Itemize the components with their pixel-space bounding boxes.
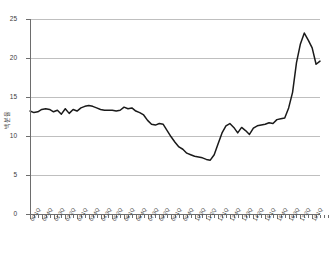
- x-axis-tick: [214, 215, 215, 218]
- x-axis-tick: [324, 215, 325, 218]
- x-axis-tick: [273, 215, 274, 218]
- y-axis-tick-label: 5: [1, 171, 17, 178]
- x-axis-tick: [179, 215, 180, 218]
- y-axis-line: [30, 19, 31, 215]
- x-axis-tick: [120, 215, 121, 218]
- x-axis-tick: [226, 215, 227, 218]
- y-axis-tick-label: 0: [1, 210, 17, 217]
- y-axis-tick-label: 20: [1, 54, 17, 61]
- x-axis-tick: [167, 215, 168, 218]
- x-axis-labels: 00.1Q00.4Q01.3Q02.2Q03.1Q03.4Q04.3Q05.2Q…: [0, 219, 329, 255]
- x-axis-tick: [320, 215, 321, 218]
- x-axis-tick: [73, 215, 74, 218]
- line-chart: 백분율 0510152025 00.1Q00.4Q01.3Q02.2Q03.1Q…: [0, 0, 329, 255]
- y-axis-tick-label: 15: [1, 93, 17, 100]
- y-axis-tick-label: 25: [1, 15, 17, 22]
- y-axis-tick-label: 10: [1, 132, 17, 139]
- series-polyline: [30, 33, 320, 160]
- plot-area: 0510152025: [30, 19, 320, 214]
- x-axis-tick: [308, 215, 309, 218]
- x-axis-tick: [261, 215, 262, 218]
- data-series-line: [30, 19, 320, 214]
